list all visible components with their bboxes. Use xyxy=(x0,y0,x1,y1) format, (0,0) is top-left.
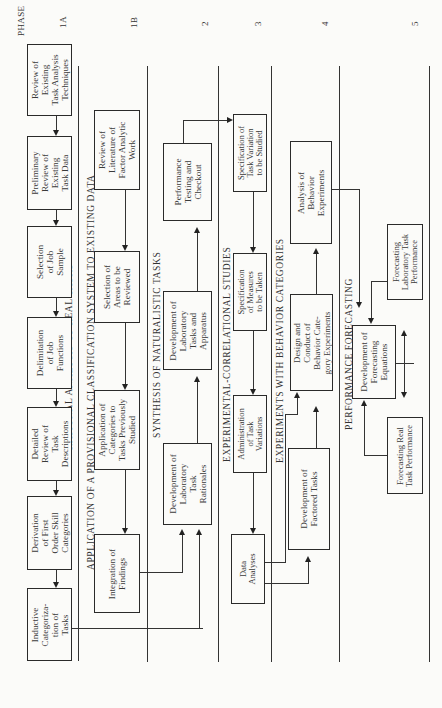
arrow-up-icon xyxy=(313,406,319,412)
arrow-down-icon xyxy=(53,582,59,588)
box-spec-task-variation: Specification of Task Variation to be St… xyxy=(233,114,267,192)
phase-2-label: 2 xyxy=(200,21,210,26)
connector xyxy=(199,535,200,629)
box-review-literature: Review of Literature of Factor Analytic … xyxy=(94,110,140,190)
arrow-down-icon xyxy=(53,220,59,226)
connector xyxy=(364,455,387,456)
section-title-4: EXPERIMENTS WITH BEHAVIOR CATEGORIES xyxy=(275,238,285,463)
box-dev-factored-tasks: Development of Factored Tasks xyxy=(288,448,330,550)
arrow-down-icon xyxy=(53,490,59,496)
box-spec-measures: Specification of Measures to be Taken xyxy=(233,253,267,331)
box-dev-forecasting-eq: Development of Forecasting Equations xyxy=(352,325,396,399)
connector xyxy=(316,412,317,448)
connector xyxy=(285,414,297,415)
connector xyxy=(182,535,183,573)
box-performance-testing: Performance Testing and Checkout xyxy=(163,143,212,221)
connector xyxy=(125,190,126,245)
box-selection-areas: Selection of Areas to be Reviewed xyxy=(94,251,140,323)
connector xyxy=(253,473,254,528)
box-inductive-categorization: Inductive Categoriza- tion of Tasks xyxy=(27,588,72,661)
box-integration-findings: Integration of Findings xyxy=(94,534,140,613)
arrow-down-icon xyxy=(356,302,362,308)
box-analysis-behavior: Analysis of Behavior Experiments xyxy=(290,141,332,244)
phase-1a-label: 1A xyxy=(58,16,68,28)
arrow-up-icon xyxy=(305,556,311,562)
divider-1a-1b xyxy=(78,66,79,661)
arrow-down-icon xyxy=(122,384,128,390)
box-administration: Administration of Task Variations xyxy=(233,395,267,473)
arrow-down-icon xyxy=(122,528,128,534)
arrow-down-icon xyxy=(250,247,256,253)
connector xyxy=(265,583,309,584)
connector xyxy=(316,253,317,295)
box-data-analyses: Data Analyses xyxy=(231,534,265,604)
connector xyxy=(56,570,57,582)
box-preliminary-review: Preliminary Review of Existing Task Data xyxy=(27,136,72,210)
arrow-down-icon xyxy=(53,311,59,317)
phase-header-label: PHASE xyxy=(16,5,26,36)
box-selection-job-sample: Selection of Job Sample xyxy=(27,226,72,298)
arrow-up-icon xyxy=(194,376,200,382)
connector xyxy=(56,298,57,311)
connector xyxy=(125,470,126,528)
phase-4-label: 4 xyxy=(320,21,330,26)
connector xyxy=(396,363,414,364)
connector xyxy=(364,405,365,456)
connector xyxy=(56,116,57,130)
divider-3-4 xyxy=(271,66,272,662)
arrow-down-icon xyxy=(53,130,59,136)
divider-2-3 xyxy=(218,66,219,662)
connector xyxy=(371,281,372,319)
connector xyxy=(308,562,309,584)
phase-5-label: 5 xyxy=(410,21,420,26)
connector xyxy=(359,189,360,302)
box-review-existing-techniques: Review of Existing Task Analysis Techniq… xyxy=(27,44,72,116)
connector xyxy=(140,572,183,573)
arrow-up-icon xyxy=(294,392,300,398)
divider-5-end xyxy=(429,66,430,662)
arrow-down-icon xyxy=(250,528,256,534)
connector xyxy=(285,547,286,563)
arrow-up-icon xyxy=(196,529,202,535)
connector xyxy=(125,323,126,384)
connector xyxy=(285,414,286,548)
connector xyxy=(404,334,405,394)
box-dev-lab-rationales: Development of Laboratory Task Rationale… xyxy=(163,443,212,525)
connector xyxy=(265,562,285,563)
box-application-categories: Application of Categories to Tasks Previ… xyxy=(94,390,140,470)
phase-3-label: 3 xyxy=(253,21,263,26)
box-forecasting-lab: Forecasting Laboratory Task Performance xyxy=(387,224,423,300)
box-detailed-review: Detailed Review of Task Descriptions xyxy=(27,407,72,481)
arrow-down-icon xyxy=(53,401,59,407)
section-title-3: EXPERIMENTAL-CORRELATIONAL STUDIES xyxy=(222,247,232,462)
connector xyxy=(197,381,198,443)
arrow-down-icon xyxy=(368,318,374,324)
connector xyxy=(253,192,254,247)
section-title-1b: APPLICATION OF A PROVISIONAL CLASSIFICAT… xyxy=(86,174,96,570)
arrow-up-icon xyxy=(361,400,367,406)
connector xyxy=(56,481,57,490)
arrow-down-icon xyxy=(122,245,128,251)
arrow-up-icon xyxy=(401,330,407,336)
connector xyxy=(332,189,360,190)
connector xyxy=(183,120,228,121)
connector xyxy=(371,281,387,282)
connector xyxy=(72,628,203,629)
box-derivation-skill-categories: Derivation of First Order Skill Categori… xyxy=(27,496,72,570)
connector xyxy=(297,398,298,415)
connector xyxy=(183,120,184,143)
arrow-up-icon xyxy=(194,227,200,233)
arrow-up-icon xyxy=(313,248,319,254)
connector xyxy=(56,210,57,220)
arrow-down-icon xyxy=(250,389,256,395)
divider-4-5 xyxy=(339,66,340,662)
section-title-2: SYNTHESIS OF NATURALISTIC TASKS xyxy=(152,252,162,438)
box-forecasting-real: Forecasting Real Task Performance xyxy=(387,417,423,494)
connector xyxy=(197,232,198,291)
connector xyxy=(56,389,57,401)
box-delimitation-job-functions: Delimitation of Job Functions xyxy=(27,317,72,389)
arrow-down-icon xyxy=(401,392,407,398)
arrow-up-icon xyxy=(179,529,185,535)
box-design-conduct: Design and Conduct of Behavior Cate- gor… xyxy=(290,294,333,391)
phase-1b-label: 1B xyxy=(129,17,139,28)
